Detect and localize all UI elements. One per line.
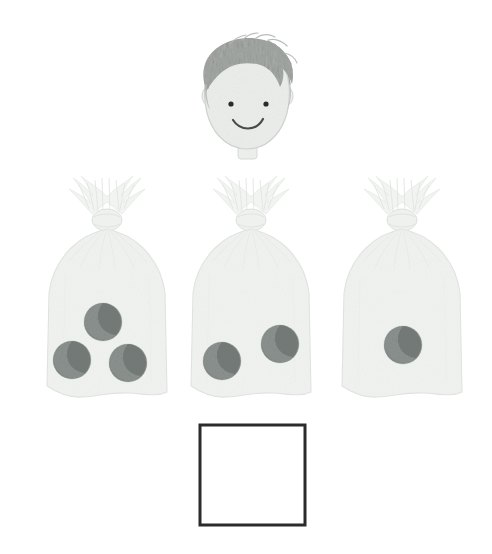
worksheet-scene: Marble bags counting problem Smiling boy… — [0, 0, 492, 554]
marble — [203, 342, 241, 380]
marble — [84, 303, 122, 341]
marble — [53, 341, 91, 379]
illustration-canvas — [0, 0, 492, 554]
answer-box[interactable] — [200, 425, 305, 525]
marble — [109, 344, 147, 382]
eye-right — [263, 101, 268, 106]
eye-left — [228, 101, 233, 106]
marble — [261, 325, 299, 363]
bag-3-marbles — [384, 326, 422, 364]
boy-head — [202, 33, 297, 159]
marble — [384, 326, 422, 364]
